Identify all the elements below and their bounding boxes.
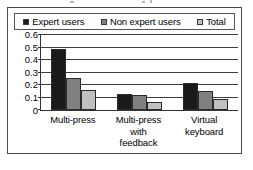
x-category-label: Virtual keyboard: [172, 114, 237, 152]
legend-swatch-icon: [23, 19, 29, 25]
legend-item-non-expert-users: Non expert users: [101, 17, 181, 27]
x-category-line: feedback: [106, 137, 171, 149]
bar: [183, 83, 198, 110]
bar: [51, 49, 66, 110]
chart-figure-frame: Expert users Non expert users Total 0.6 …: [7, 7, 242, 154]
legend-label: Total: [206, 17, 226, 27]
bar: [213, 99, 228, 110]
y-axis-tick-labels: 0.6 0.5 0.4 0.3 0.2 0.1 0: [12, 34, 38, 110]
y-tick-label: 0.3: [25, 67, 38, 76]
x-category-line: Multi-press: [106, 114, 171, 126]
y-tick-label: 0.1: [25, 93, 38, 102]
legend-label: Non expert users: [110, 17, 181, 27]
x-category-line: with: [106, 126, 171, 138]
x-axis-category-labels: Multi-press Multi-press with feedback Vi…: [40, 114, 237, 152]
bars-layer: [41, 34, 238, 110]
bar-group: [176, 34, 235, 110]
bar: [198, 91, 213, 110]
y-tick-label: 0.2: [25, 80, 38, 89]
x-category-line: Multi-press: [40, 114, 105, 126]
legend-item-expert-users: Expert users: [23, 17, 84, 27]
y-tick-label: 0.5: [25, 42, 38, 51]
bar-group: [44, 34, 103, 110]
scan-artifact: [142, 1, 145, 3]
x-category-line: keyboard: [172, 126, 237, 138]
scan-artifact: [70, 1, 74, 3]
bar-group: [110, 34, 169, 110]
bar: [66, 78, 81, 110]
bar: [147, 102, 162, 110]
bar: [132, 95, 147, 110]
y-tick-label: 0.6: [25, 30, 38, 39]
chart-legend: Expert users Non expert users Total: [14, 13, 235, 30]
x-category-line: Virtual: [172, 114, 237, 126]
x-category-label: Multi-press with feedback: [106, 114, 171, 152]
bar: [117, 94, 132, 110]
legend-swatch-icon: [101, 19, 107, 25]
plot-wrapper: 0.6 0.5 0.4 0.3 0.2 0.1 0: [12, 34, 239, 149]
legend-item-total: Total: [197, 17, 226, 27]
plot-area: [40, 34, 238, 111]
y-tick-label: 0.4: [25, 55, 38, 64]
bar: [81, 90, 96, 110]
legend-label: Expert users: [32, 17, 84, 27]
scan-artifact: [150, 0, 152, 3]
x-category-label: Multi-press: [40, 114, 105, 152]
legend-swatch-icon: [197, 19, 203, 25]
